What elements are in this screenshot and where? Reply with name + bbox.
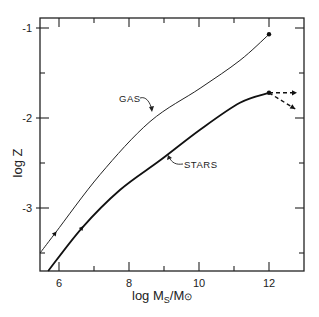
stars-label: STARS (184, 159, 217, 170)
x-tick-label: 10 (193, 277, 205, 289)
curve-markers (52, 32, 297, 236)
x-tick-label: 6 (56, 277, 62, 289)
gas-direction-arrow-icon (52, 231, 57, 236)
axis-ticks (36, 18, 304, 271)
plot-frame (40, 18, 304, 271)
y-tick-label: -1 (22, 22, 32, 34)
gas-leader-arrowhead-icon (149, 106, 154, 112)
gas-curve (40, 34, 269, 253)
x-tick-label: 12 (263, 277, 275, 289)
dashed-arrowhead-icon (292, 90, 297, 95)
dashed-arrowhead-icon (290, 104, 296, 109)
gas-label: GAS (119, 93, 141, 104)
stars-leader-arrowhead-icon (167, 155, 172, 160)
gas-endpoint-dot-icon (267, 32, 271, 36)
chart: 6 8 10 12 -1 -2 -3 log MS/M⊙ log Z GAS S… (0, 0, 319, 317)
y-axis-label: log Z (10, 148, 25, 177)
stars-curve (48, 93, 269, 271)
y-tick-label: -3 (22, 202, 32, 214)
y-tick-label: -2 (22, 112, 32, 124)
x-axis-label: log MS/M⊙ (132, 288, 192, 305)
